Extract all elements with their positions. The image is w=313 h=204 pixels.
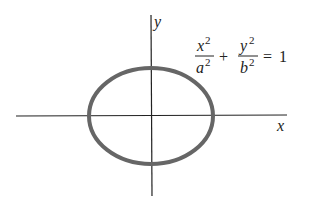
term1-numerator: x: [196, 37, 204, 54]
term2-denominator-exp: 2: [249, 56, 255, 68]
y-axis: [151, 15, 152, 196]
term1-denominator-exp: 2: [205, 56, 211, 68]
x-axis-label: x: [276, 117, 284, 134]
plus-operator: +: [219, 48, 228, 65]
ellipse-diagram: y x x 2 a 2 + y 2 b 2 = 1: [0, 0, 313, 204]
equals-sign: =: [263, 48, 272, 65]
equation-rhs: 1: [279, 48, 287, 65]
term2-numerator-exp: 2: [249, 34, 255, 46]
y-axis-label: y: [152, 13, 162, 31]
term1-numerator-exp: 2: [205, 34, 211, 46]
term2-numerator: y: [238, 37, 248, 55]
equation: x 2 a 2 + y 2 b 2 = 1: [195, 34, 287, 76]
term1-denominator: a: [196, 59, 204, 76]
term2-denominator: b: [240, 59, 248, 76]
